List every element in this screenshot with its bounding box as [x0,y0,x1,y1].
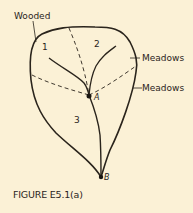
label-meadows-lower: Meadows [142,84,184,93]
label-meadows-upper: Meadows [142,54,184,63]
divide-left [32,75,89,95]
point-b-label: B [104,174,110,182]
label-wooded: Wooded [14,12,50,21]
leader-wooded [33,21,36,42]
divide-right [89,66,136,95]
point-a-label: A [94,94,99,102]
watershed-diagram [0,0,193,213]
point-a-marker [87,94,92,99]
subarea-2: 2 [94,40,100,49]
tributary-left [49,58,89,95]
point-b-marker [99,175,103,179]
figure-caption: FIGURE E5.1(a) [13,189,83,200]
subarea-3: 3 [74,116,80,125]
subarea-1: 1 [42,43,48,52]
